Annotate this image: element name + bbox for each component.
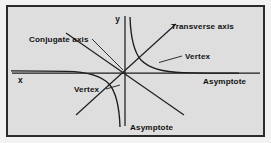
y-axis-label: y [115,14,120,24]
screenshot-root: x y Conjugate axis Transverse axis Verte… [0,0,271,143]
label-asymptote-bottom: Asymptote [130,123,174,132]
label-vertex-lower: Vertex [74,85,100,94]
hyperbola-diagram-svg: x y Conjugate axis Transverse axis Verte… [8,7,263,135]
label-asymptote-right: Asymptote [203,77,247,86]
x-axis-label: x [18,75,23,85]
vertex-upper-leader-line [159,56,182,63]
label-transverse-axis: Transverse axis [171,22,234,31]
label-conjugate-axis: Conjugate axis [29,35,89,44]
label-vertex-upper: Vertex [185,52,211,61]
hyperbola-figure-frame: x y Conjugate axis Transverse axis Verte… [6,5,265,137]
hyperbola-branch-lower-left [11,71,120,127]
